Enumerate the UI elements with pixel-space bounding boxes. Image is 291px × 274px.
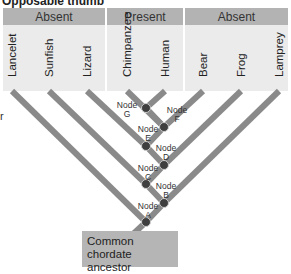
node-label-b: NodeB — [153, 182, 179, 200]
root-label-line2: ancestor — [87, 261, 178, 274]
root-label-line1: Common chordate — [87, 235, 178, 261]
node-g-dot — [142, 104, 151, 113]
node-label-f: NodeF — [164, 106, 190, 124]
node-label-c: NodeC — [135, 164, 161, 182]
node-label-g: NodeG — [114, 101, 140, 119]
edge-text-fragment: r — [0, 110, 4, 122]
node-label-e: NodeE — [135, 125, 161, 143]
node-label-d: NodeD — [153, 144, 179, 162]
root-box: Common chordate ancestor — [82, 231, 178, 267]
node-label-a: NodeA — [135, 202, 161, 220]
